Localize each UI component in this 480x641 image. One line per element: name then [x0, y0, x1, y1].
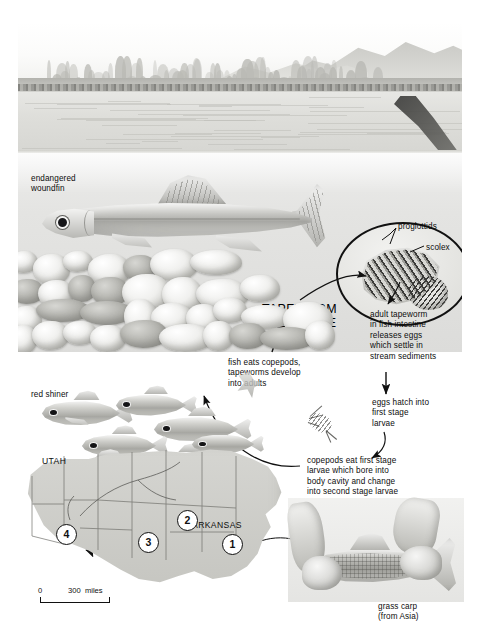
water-ripple	[298, 134, 441, 135]
water-ripple	[108, 101, 141, 102]
woundfin-lateral-line	[74, 218, 300, 220]
water-ripple	[102, 125, 177, 126]
red-shiner-dorsal-fin	[73, 390, 100, 400]
water-ripple	[106, 143, 140, 144]
red-shiner-fish	[42, 398, 120, 428]
water-ripple	[199, 106, 232, 107]
endangered-woundfin-label: endangered woundfin	[31, 174, 76, 195]
copepod-illustration	[296, 404, 340, 444]
cycle-step-eggs-hatch: eggs hatch into first stage larvae	[372, 398, 429, 429]
red-shiner-dorsal-fin	[144, 385, 168, 394]
water-ripple	[310, 111, 460, 112]
person-hand-left	[302, 556, 342, 590]
red-shiner-eye	[162, 425, 171, 433]
grass-carp-label: grass carp (from Asia)	[378, 602, 419, 623]
water-ripple	[61, 118, 208, 119]
arrow-eggs-to-copepods	[372, 432, 385, 458]
river-scene-illustration	[18, 22, 462, 352]
map-scale-bar: 0 300 miles	[38, 586, 130, 606]
tapeworm-scolex-head	[408, 276, 448, 310]
cycle-step-copepods-eat: copepods eat first stage larvae which bo…	[307, 456, 398, 498]
cycle-step-fish-eats-copepods: fish eats copepods, tapeworms develop in…	[228, 358, 301, 389]
water-ripple	[261, 137, 300, 138]
grass-carp-illustration	[288, 498, 464, 602]
woundfin-gill-cover	[84, 210, 97, 236]
person-hand-right	[400, 546, 442, 580]
water-ripple	[110, 110, 270, 111]
map-marker-4[interactable]: 4	[56, 524, 77, 545]
water-ripple	[309, 107, 364, 108]
cobblestone	[240, 275, 280, 302]
water-ripple	[183, 115, 347, 116]
woundfin-fish-illustration	[40, 172, 340, 258]
scale-bar-ticks	[40, 597, 110, 603]
water-ripple	[34, 108, 97, 109]
scale-zero-label: 0	[38, 586, 42, 595]
water-ripple	[142, 141, 178, 142]
water-ripple	[308, 123, 462, 124]
proglottids-label: proglottids	[398, 222, 437, 232]
water-ripple	[309, 97, 381, 98]
water-ripple	[86, 139, 263, 140]
scale-distance-label: 300 miles	[68, 586, 103, 595]
water-ripple	[214, 130, 291, 131]
scolex-label: scolex	[426, 243, 450, 253]
map-state-label-arkansas: ARKANSAS	[192, 520, 242, 530]
water-ripple	[57, 104, 171, 105]
cobblestone	[305, 321, 335, 350]
water-ripple	[138, 114, 290, 115]
map-marker-2[interactable]: 2	[177, 510, 198, 531]
water-ripple	[199, 105, 328, 106]
water-ripple	[208, 144, 287, 145]
cobblestone-streambed	[18, 246, 348, 346]
bank-edge-texture	[18, 84, 462, 91]
us-distribution-map: UTAH ARKANSAS 1 2 3 4	[20, 440, 282, 596]
river-surface	[18, 92, 462, 154]
water-ripple	[204, 120, 256, 121]
cycle-step-adult-tapeworm: adult tapeworm in fish intestine release…	[370, 310, 436, 362]
woundfin-eye	[56, 216, 69, 229]
map-marker-1[interactable]: 1	[222, 534, 243, 555]
water-ripple	[123, 134, 212, 135]
water-ripple	[22, 148, 182, 149]
figure-page: endangered woundfin proglottids scolex T…	[0, 0, 480, 641]
cobblestone	[190, 250, 242, 275]
map-state-label-utah: UTAH	[42, 456, 66, 466]
map-marker-3[interactable]: 3	[138, 532, 159, 553]
